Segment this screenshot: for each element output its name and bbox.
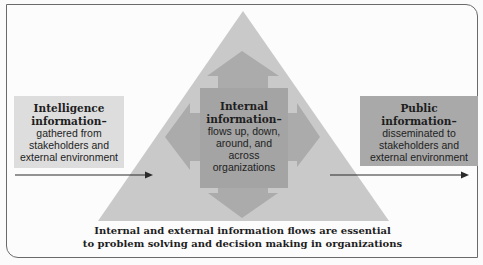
public-information-box: Public information– disseminated to stak… [360,96,478,166]
box-text: external environment [360,151,478,163]
box-text: stakeholders and [14,139,124,151]
box-text: external environment [14,151,124,163]
internal-information-box: Internal information– flows up, down, ar… [200,88,288,188]
box-title: information– [14,115,124,128]
box-text: organizations [200,161,288,173]
diagram-caption: Internal and external information flows … [40,224,445,250]
box-text: disseminated to [360,127,478,139]
box-text: across [200,149,288,161]
box-title: Public [360,102,478,115]
box-title: information– [360,115,478,128]
box-title: Internal [200,100,288,113]
box-title: information– [200,113,288,126]
box-text: around, and [200,137,288,149]
caption-line: to problem solving and decision making i… [40,237,445,250]
caption-line: Internal and external information flows … [40,224,445,237]
intelligence-information-box: Intelligence information– gathered from … [14,96,124,168]
box-text: gathered from [14,127,124,139]
box-title: Intelligence [14,102,124,115]
outflow-arrowhead-icon [461,172,469,179]
box-text: stakeholders and [360,139,478,151]
box-text: flows up, down, [200,125,288,137]
